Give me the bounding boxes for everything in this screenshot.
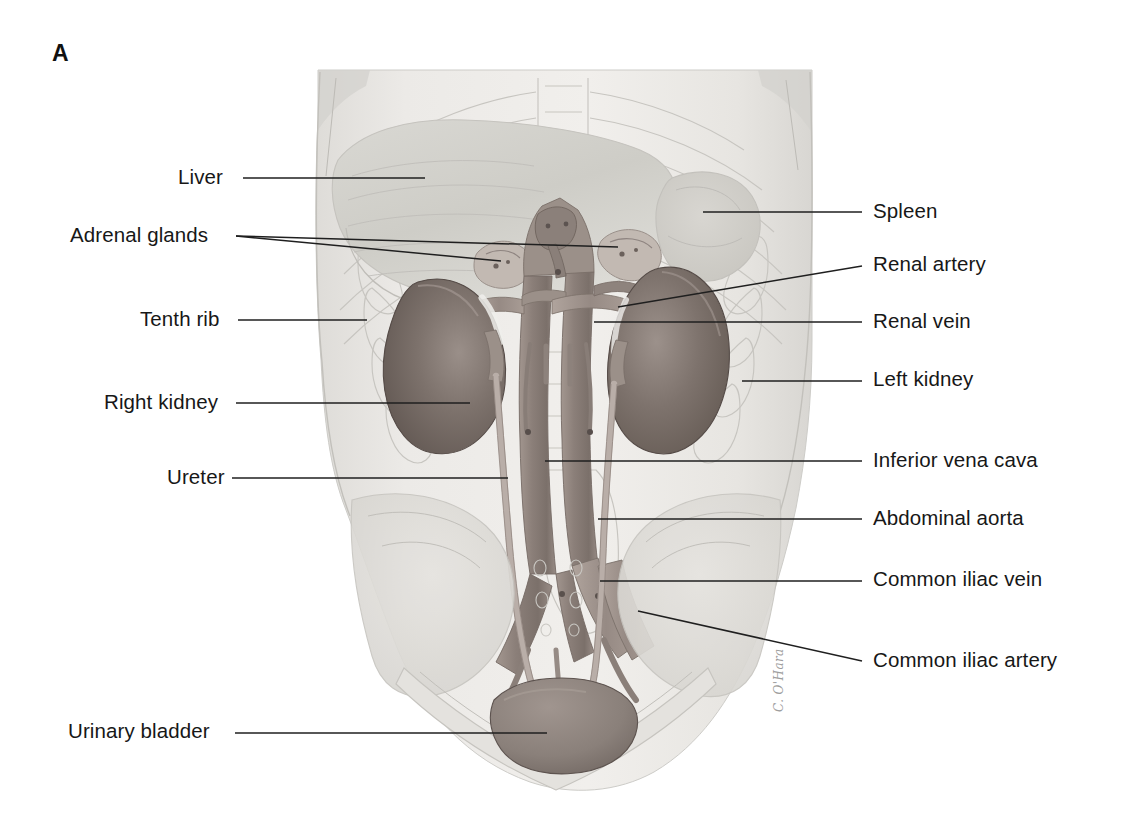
- label-right-kidney: Right kidney: [104, 392, 218, 413]
- anatomical-figure: A LiverAdrenal glandsTenth ribRight kidn…: [0, 0, 1132, 832]
- label-adrenal-glands: Adrenal glands: [70, 225, 208, 246]
- label-ureter: Ureter: [167, 467, 225, 488]
- label-abdominal-aorta: Abdominal aorta: [873, 508, 1024, 529]
- label-inferior-vena-cava: Inferior vena cava: [873, 450, 1038, 471]
- urinary-bladder-organ: [490, 678, 637, 774]
- label-urinary-bladder: Urinary bladder: [68, 721, 210, 742]
- label-common-iliac-artery: Common iliac artery: [873, 650, 1057, 671]
- illustration-canvas: [0, 0, 1132, 832]
- label-tenth-rib: Tenth rib: [140, 309, 220, 330]
- label-renal-artery: Renal artery: [873, 254, 986, 275]
- label-renal-vein: Renal vein: [873, 311, 971, 332]
- label-spleen: Spleen: [873, 201, 937, 222]
- label-liver: Liver: [178, 167, 223, 188]
- right-kidney-organ: [383, 279, 505, 454]
- label-common-iliac-vein: Common iliac vein: [873, 569, 1042, 590]
- artist-signature: C. O'Hara: [772, 648, 786, 712]
- panel-letter: A: [52, 40, 69, 67]
- label-left-kidney: Left kidney: [873, 369, 973, 390]
